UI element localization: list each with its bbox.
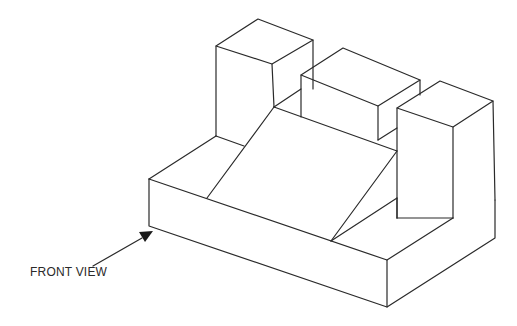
right-tower — [397, 81, 495, 218]
arrowhead-icon — [139, 231, 153, 242]
left-tower — [216, 19, 313, 146]
front-view-label: FRONT VIEW — [30, 265, 107, 279]
middle-block — [301, 48, 420, 140]
front-view-arrow — [93, 231, 153, 266]
inclined-ramp — [207, 89, 397, 241]
base-slab — [149, 136, 495, 307]
